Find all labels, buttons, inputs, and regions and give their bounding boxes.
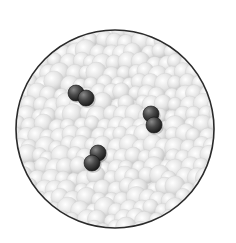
solvent-particle (177, 217, 198, 238)
solvent-particle (13, 188, 34, 209)
solvent-particle (13, 33, 28, 48)
solvent-particle (199, 63, 218, 82)
solvent-particle (33, 10, 53, 30)
solvent-particle (210, 144, 231, 165)
solvent-particle (213, 44, 230, 61)
solvent-particle (15, 23, 34, 42)
solvent-particle (31, 22, 49, 40)
solvent-particle (72, 13, 88, 29)
solvent-particle (200, 188, 216, 204)
solvent-particle (213, 66, 228, 81)
solvent-particle (185, 20, 205, 40)
solvent-particle (208, 23, 227, 42)
solvent-particle (13, 210, 34, 231)
solvent-particle (198, 45, 215, 62)
mixture-diagram (0, 0, 236, 243)
solvent-particle (0, 97, 15, 116)
solvent-particle (176, 211, 195, 230)
solvent-particle (174, 24, 193, 43)
solvent-particle (195, 167, 217, 189)
solvent-particle (10, 56, 28, 74)
solvent-particle (135, 13, 151, 29)
solvent-particle (86, 220, 102, 236)
solvent-particle (0, 223, 14, 239)
solvent-particle (28, 209, 46, 227)
solvent-particle (158, 12, 175, 29)
solvent-particle (207, 33, 224, 50)
solvent-particle (0, 53, 17, 70)
solvent-particle (53, 23, 69, 39)
solvent-particle (92, 10, 113, 31)
solvent-particle (47, 10, 65, 28)
solvent-particle (79, 13, 100, 34)
solvent-particle (45, 223, 62, 240)
solvent-particle (20, 30, 38, 48)
solvent-particle (165, 219, 185, 239)
solvent-particle (209, 203, 223, 217)
solvent-particle (192, 32, 210, 50)
solvent-particle (167, 32, 183, 48)
solvent-particle (9, 77, 24, 92)
solvent-particle (200, 211, 218, 229)
solvent-particle (210, 171, 229, 190)
solvent-particle (59, 14, 75, 30)
solvent-particle (202, 56, 221, 75)
solvent-particle (1, 179, 16, 194)
solvent-particle (183, 13, 199, 29)
solvent-particle (70, 222, 87, 239)
solvent-particle (39, 21, 59, 41)
solvent-particle (204, 160, 223, 179)
solvent-particle (0, 36, 16, 52)
solvent-particle (179, 30, 198, 49)
solvent-particle (20, 52, 38, 70)
solvent-particle (209, 84, 229, 104)
solvent-particle (214, 126, 230, 142)
solvent-particle (204, 177, 224, 197)
solvent-particle (0, 201, 12, 216)
solvent-particle (35, 201, 50, 216)
solvent-particle (4, 188, 25, 209)
solvent-particle (9, 12, 27, 30)
solvent-particle (11, 177, 31, 197)
solvent-particle (187, 211, 206, 230)
solvent-particle (11, 203, 27, 219)
solvent-particle (0, 158, 18, 179)
solvent-particle (22, 222, 37, 237)
solvent-particle (211, 210, 232, 231)
solvent-particle (192, 11, 212, 31)
solvent-particle (0, 136, 17, 156)
solvent-particle (210, 192, 226, 208)
solvent-particle (0, 75, 13, 93)
solvent-particle (42, 213, 61, 232)
solvent-particles (0, 10, 232, 241)
solvent-particle (20, 14, 39, 33)
solvent-particle (2, 45, 21, 64)
solvent-particle (0, 114, 16, 133)
solvent-particle (5, 22, 20, 37)
solvent-particle (185, 41, 204, 60)
solvent-particle (195, 219, 213, 237)
solvent-particle (4, 210, 23, 229)
solvent-particle (202, 23, 217, 38)
solvent-particle (160, 19, 182, 41)
solvent-particle (22, 200, 37, 215)
solvent-particle (204, 220, 220, 236)
solvent-particle (122, 12, 138, 28)
solute-atom (78, 90, 94, 106)
solvent-particle (0, 14, 15, 29)
solvent-particle (35, 223, 52, 240)
solvent-particle (61, 223, 76, 238)
solvent-particle (181, 200, 199, 218)
solvent-particle (16, 45, 35, 64)
solute-atom (146, 117, 162, 133)
solvent-particle (167, 15, 183, 31)
solvent-particle (192, 54, 209, 71)
solvent-particle (156, 221, 175, 240)
solvent-particle (6, 66, 22, 82)
solvent-particle (145, 12, 161, 28)
solvent-particle (7, 221, 27, 241)
solvent-particle (37, 36, 52, 51)
solvent-particle (206, 11, 222, 27)
solute-atom (84, 155, 100, 171)
solvent-particle (190, 198, 210, 218)
